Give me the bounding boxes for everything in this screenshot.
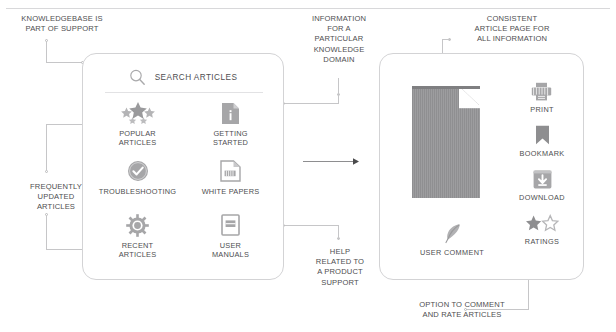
- article-page-panel: PRINT BOOKMARK: [379, 53, 584, 280]
- connector-line: [46, 42, 47, 63]
- article-actions: PRINT BOOKMARK: [509, 80, 575, 246]
- flow-arrow-icon: [303, 157, 359, 166]
- stars-rating-icon: [525, 212, 559, 234]
- stars-icon: [118, 101, 158, 125]
- tile-troubleshooting[interactable]: TROUBLESHOOTING: [91, 156, 184, 210]
- action-download[interactable]: DOWNLOAD: [519, 168, 565, 202]
- tile-label: WHITE PAPERS: [202, 187, 260, 196]
- connector-line: [46, 62, 84, 63]
- diagram-canvas: KNOWLEDGEBASE IS PART OF SUPPORT FREQUEN…: [0, 0, 616, 332]
- gear-burst-icon: [126, 213, 149, 237]
- connector-line: [284, 225, 339, 226]
- connector-endpoint-dot: [45, 213, 48, 216]
- check-badge-icon: [127, 159, 149, 183]
- connector-line: [338, 225, 339, 239]
- action-label: BOOKMARK: [520, 149, 565, 158]
- annotation-information-for-a-particular-knowledge-domain: INFORMATION FOR A PARTICULAR KNOWLEDGE D…: [296, 14, 382, 65]
- book-icon: [221, 213, 240, 237]
- tile-recent-articles[interactable]: RECENT ARTICLES: [91, 210, 184, 268]
- tile-white-papers[interactable]: WHITE PAPERS: [184, 156, 277, 210]
- knowledgebase-panel: SEARCH ARTICLES: [82, 53, 284, 280]
- search-divider: [105, 92, 263, 93]
- tile-label: USER MANUALS: [212, 241, 249, 259]
- tile-getting-started[interactable]: GETTING STARTED: [184, 98, 277, 156]
- connector-line: [284, 103, 339, 104]
- annotation-consistent-article-page-for-all-information: CONSISTENT ARTICLE PAGE FOR ALL INFORMAT…: [452, 14, 572, 45]
- connector-line: [442, 39, 450, 40]
- feather-icon: [442, 222, 463, 244]
- document-info-icon: [221, 101, 240, 125]
- download-icon: [533, 168, 552, 190]
- annotation-option-to-comment-and-rate-articles: OPTION TO COMMENT AND RATE ARTICLES: [400, 300, 524, 320]
- search-articles-label: SEARCH ARTICLES: [155, 73, 238, 82]
- action-print[interactable]: PRINT: [530, 80, 554, 114]
- tile-label: POPULAR ARTICLES: [119, 129, 157, 147]
- document-text-icon: [220, 159, 241, 183]
- top-divider: [6, 8, 610, 9]
- search-articles-row[interactable]: SEARCH ARTICLES: [83, 64, 283, 90]
- tile-label: TROUBLESHOOTING: [99, 187, 176, 196]
- tile-label: GETTING STARTED: [213, 129, 248, 147]
- action-label: PRINT: [530, 105, 554, 114]
- connector-line: [338, 93, 339, 104]
- knowledgebase-tile-grid: POPULAR ARTICLES GETTING STARTED: [91, 98, 277, 268]
- document-page-icon: [412, 86, 480, 198]
- connector-line: [46, 124, 47, 171]
- tile-popular-articles[interactable]: POPULAR ARTICLES: [91, 98, 184, 156]
- connector-line: [338, 78, 339, 94]
- tile-user-manuals[interactable]: USER MANUALS: [184, 210, 277, 268]
- user-comment-block[interactable]: USER COMMENT: [398, 222, 506, 257]
- action-bookmark[interactable]: BOOKMARK: [520, 124, 565, 158]
- action-label: DOWNLOAD: [519, 193, 565, 202]
- action-ratings[interactable]: RATINGS: [525, 212, 559, 246]
- user-comment-label: USER COMMENT: [420, 248, 484, 257]
- connector-line: [466, 309, 529, 310]
- printer-icon: [531, 80, 552, 102]
- tile-label: RECENT ARTICLES: [119, 241, 157, 259]
- annotation-help-related-to-a-product-support: HELP RELATED TO A PRODUCT SUPPORT: [302, 247, 378, 288]
- search-icon: [129, 69, 146, 86]
- bookmark-icon: [535, 124, 550, 146]
- connector-line: [46, 216, 47, 250]
- action-label: RATINGS: [525, 237, 559, 246]
- connector-endpoint-dot: [464, 308, 467, 311]
- annotation-knowledgebase-is-part-of-support: KNOWLEDGEBASE IS PART OF SUPPORT: [4, 14, 120, 34]
